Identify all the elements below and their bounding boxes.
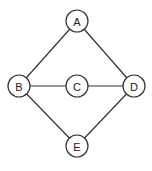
node-d-label: D <box>130 81 138 93</box>
node-c: C <box>66 75 88 97</box>
node-e: E <box>66 135 88 157</box>
node-e-label: E <box>73 141 80 153</box>
node-d: D <box>123 75 145 97</box>
edge-a-d <box>77 21 134 86</box>
nodes: A B C D E <box>8 10 145 157</box>
node-a: A <box>66 10 88 32</box>
node-b: B <box>8 75 30 97</box>
node-a-label: A <box>73 16 81 28</box>
edge-d-e <box>77 86 134 146</box>
node-b-label: B <box>15 81 22 93</box>
edge-b-e <box>19 86 77 146</box>
graph-diagram: A B C D E <box>0 0 152 171</box>
node-c-label: C <box>73 81 81 93</box>
edge-a-b <box>19 21 77 86</box>
